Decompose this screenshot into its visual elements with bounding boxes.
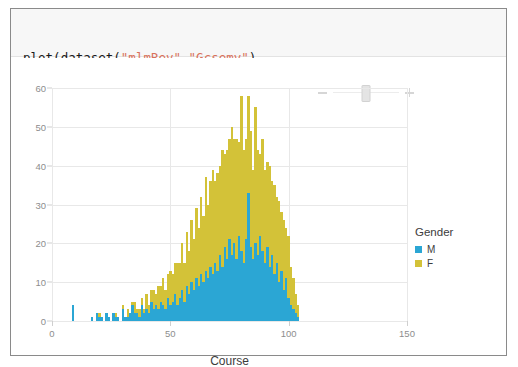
histogram-bar	[108, 317, 110, 321]
bar-segment-f	[297, 305, 299, 317]
y-tick-label: 30	[35, 199, 46, 210]
y-tick-label: 10	[35, 277, 46, 288]
gridline-vertical	[407, 88, 408, 321]
histogram-bar	[117, 317, 119, 321]
legend-label: F	[427, 258, 433, 269]
bar-segment-m	[91, 317, 93, 321]
bar-segment-f	[141, 298, 143, 306]
screenshot-root: plot(dataset("mlmRev","Gcsemv"), x="Cour…	[0, 0, 518, 367]
x-tick-mark	[289, 321, 290, 326]
x-axis-label: Course	[52, 354, 407, 367]
gridline-horizontal	[52, 321, 407, 322]
y-tick-label: 40	[35, 160, 46, 171]
histogram-bar	[72, 305, 74, 321]
bar-segment-m	[101, 317, 103, 321]
plot-panel: 0102030405060 050100150 Course Gender MF	[11, 58, 506, 355]
legend-title: Gender	[415, 226, 505, 238]
bar-segment-m	[108, 317, 110, 321]
x-tick-mark	[170, 321, 171, 326]
legend: Gender MF	[415, 226, 505, 272]
histogram-bar	[297, 305, 299, 321]
y-tick-label: 20	[35, 238, 46, 249]
y-tick-mark	[47, 204, 52, 205]
legend-entry[interactable]: F	[415, 258, 505, 269]
bar-segment-m	[117, 317, 119, 321]
x-tick-label: 100	[281, 328, 297, 339]
legend-swatch	[415, 260, 422, 267]
bar-segment-f	[122, 305, 124, 309]
legend-entry[interactable]: M	[415, 244, 505, 255]
x-tick-label: 150	[399, 328, 415, 339]
histogram-bars	[52, 88, 407, 321]
x-tick-mark	[407, 321, 408, 326]
legend-swatch	[415, 246, 422, 253]
plot-area: 0102030405060 050100150	[52, 88, 407, 321]
x-tick-mark	[52, 321, 53, 326]
x-tick-label: 0	[49, 328, 54, 339]
y-tick-mark	[47, 243, 52, 244]
y-tick-mark	[47, 282, 52, 283]
y-tick-label: 50	[35, 121, 46, 132]
x-tick-label: 50	[165, 328, 176, 339]
code-block[interactable]: plot(dataset("mlmRev","Gcsemv"), x="Cour…	[11, 9, 506, 57]
histogram-bar	[91, 317, 93, 321]
legend-label: M	[427, 244, 435, 255]
y-tick-label: 60	[35, 83, 46, 94]
y-tick-mark	[47, 88, 52, 89]
bar-segment-m	[72, 305, 74, 321]
y-tick-mark	[47, 165, 52, 166]
y-tick-mark	[47, 126, 52, 127]
y-tick-label: 0	[41, 316, 46, 327]
legend-entries: MF	[415, 244, 505, 269]
notebook-cell-card: plot(dataset("mlmRev","Gcsemv"), x="Cour…	[10, 8, 507, 356]
histogram-bar	[101, 317, 103, 321]
bar-segment-m	[297, 317, 299, 321]
